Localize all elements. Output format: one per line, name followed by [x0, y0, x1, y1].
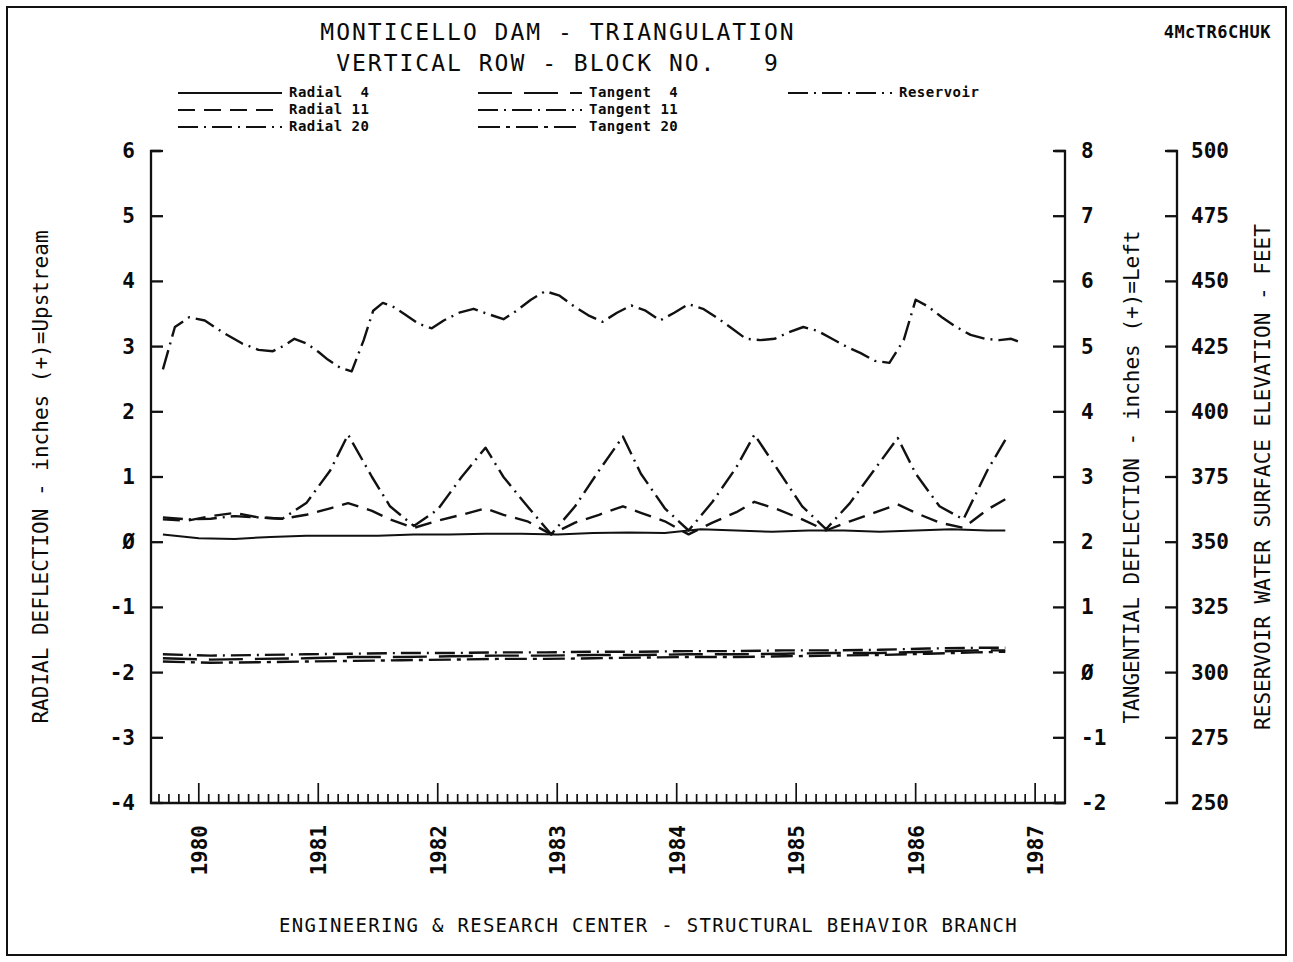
- y-tick-label-reservoir: 500: [1191, 139, 1229, 163]
- y-tick-label-radial: 6: [122, 139, 135, 163]
- chart-border: MONTICELLO DAM - TRIANGULATION VERTICAL …: [6, 6, 1287, 956]
- y-tick-label-tangential: Ø: [1080, 661, 1094, 685]
- y-tick-label-tangential: 4: [1081, 400, 1094, 424]
- y-axis-title-reservoir: RESERVOIR WATER SURFACE ELEVATION - FEET: [1251, 224, 1275, 730]
- y-tick-label-tangential: -2: [1081, 791, 1106, 815]
- y-tick-label-tangential: -1: [1081, 726, 1106, 750]
- x-tick-label: 1983: [546, 825, 570, 876]
- y-tick-label-tangential: 8: [1081, 139, 1094, 163]
- left-axis-spine: [151, 151, 1065, 803]
- y-tick-label-radial: 4: [122, 269, 135, 293]
- y-tick-label-reservoir: 275: [1191, 726, 1229, 750]
- y-tick-label-radial: 2: [122, 400, 135, 424]
- y-axis-title-tangential: TANGENTIAL DEFLECTION - inches (+)=Left: [1120, 230, 1144, 723]
- x-tick-label: 1984: [666, 825, 690, 876]
- y-tick-label-radial: Ø: [121, 530, 135, 554]
- y-tick-label-tangential: 2: [1081, 530, 1094, 554]
- x-tick-label: 1982: [427, 825, 451, 876]
- series-reservoir: [163, 291, 1023, 371]
- y-tick-label-radial: -2: [110, 661, 135, 685]
- x-tick-label: 1985: [785, 825, 809, 876]
- y-tick-label-reservoir: 450: [1191, 269, 1229, 293]
- plot-area: 654321Ø-1-2-3-487654321Ø-1-2500475450425…: [8, 8, 1289, 958]
- y-tick-label-reservoir: 475: [1191, 204, 1229, 228]
- x-tick-label: 1986: [905, 825, 929, 876]
- y-axis-title-radial: RADIAL DEFLECTION - inches (+)=Upstream: [29, 230, 53, 723]
- y-tick-label-reservoir: 350: [1191, 530, 1229, 554]
- y-tick-label-radial: 3: [122, 335, 135, 359]
- y-tick-label-reservoir: 300: [1191, 661, 1229, 685]
- y-tick-label-tangential: 5: [1081, 335, 1094, 359]
- footer-caption: ENGINEERING & RESEARCH CENTER - STRUCTUR…: [8, 914, 1289, 936]
- y-tick-label-reservoir: 400: [1191, 400, 1229, 424]
- y-tick-label-reservoir: 325: [1191, 595, 1229, 619]
- y-tick-label-reservoir: 425: [1191, 335, 1229, 359]
- y-tick-label-reservoir: 250: [1191, 791, 1229, 815]
- series-radial-4: [163, 529, 1005, 539]
- y-tick-label-radial: -1: [110, 595, 135, 619]
- y-tick-label-radial: 1: [122, 465, 135, 489]
- y-tick-label-radial: -3: [110, 726, 135, 750]
- series-radial-20: [163, 435, 1005, 535]
- x-tick-label: 1981: [307, 825, 331, 876]
- x-tick-label: 1987: [1024, 825, 1048, 876]
- y-tick-label-radial: 5: [122, 204, 135, 228]
- y-tick-label-tangential: 6: [1081, 269, 1094, 293]
- y-tick-label-radial: -4: [110, 791, 135, 815]
- y-tick-label-tangential: 3: [1081, 465, 1094, 489]
- y-tick-label-reservoir: 375: [1191, 465, 1229, 489]
- series-radial-11: [163, 499, 1005, 534]
- y-tick-label-tangential: 1: [1081, 595, 1094, 619]
- y-tick-label-tangential: 7: [1081, 204, 1094, 228]
- x-tick-label: 1980: [188, 825, 212, 876]
